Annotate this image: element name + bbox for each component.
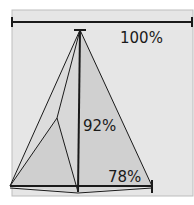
label-bottom: 78%	[108, 168, 141, 186]
label-top: 100%	[120, 29, 163, 47]
label-middle: 92%	[83, 117, 116, 135]
pyramid-diagram: 100% 92% 78%	[0, 0, 194, 205]
